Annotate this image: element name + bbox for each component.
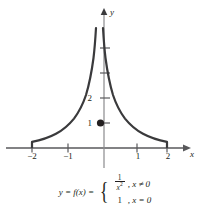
figure-caption: y = f(x) = { 1 x2 , x ≠ 0 1 , x = 0 [0,176,210,207]
equation-cases: 1 x2 , x ≠ 0 1 , x = 0 [114,176,152,207]
fraction-numerator: 1 [116,174,124,182]
left-brace-icon: { [100,182,109,200]
fraction-one-over-x-squared: 1 x2 [115,174,125,192]
case-line-nonzero: 1 x2 , x ≠ 0 [114,176,152,191]
x-tick-label-minus1: −1 [59,152,77,161]
x-tick-label-plus1: 1 [129,152,147,161]
case-two-value: 1 [114,195,126,205]
piecewise-equation: y = f(x) = { 1 x2 , x ≠ 0 1 , x = 0 [59,176,151,207]
equation-left-hand-side: y = f(x) = [59,187,94,197]
y-axis-label: y [110,8,114,17]
fraction-denominator: x2 [115,181,125,191]
y-tick-label-1: 1 [82,119,92,128]
x-tick-label-minus2: −2 [23,152,41,161]
case-line-zero: 1 , x = 0 [114,192,152,207]
x-tick-label-plus2: 2 [159,152,177,161]
case-two-condition: , x = 0 [128,195,152,205]
closed-point-marker [97,119,104,126]
case-one-condition: , x ≠ 0 [128,179,150,189]
curve-right-branch [103,28,167,142]
denominator-exponent: 2 [120,181,123,187]
plot-area [0,0,210,175]
function-graph-figure: y x −2 −1 1 2 2 1 y = f(x) = { 1 x2 , x … [0,0,210,215]
case-one-value: 1 x2 [114,175,126,193]
y-tick-label-2: 2 [82,94,92,103]
x-axis-label: x [190,150,194,159]
